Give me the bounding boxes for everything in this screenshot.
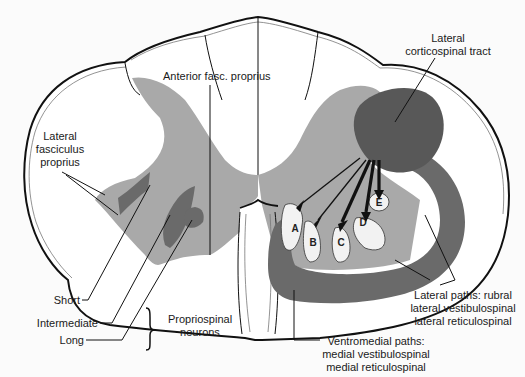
label-lateral-fasciculus-line3: proprius (40, 156, 80, 168)
pool-label-b: B (309, 237, 316, 248)
label-ventromedial-line1: Ventromedial paths: (327, 335, 424, 347)
spinal-cord-diagram: A B C D E Anterior fasc. proprius Latera (0, 0, 525, 377)
pool-label-a: A (291, 223, 298, 234)
label-lateral-paths-line3: lateral reticulospinal (414, 315, 511, 327)
label-lateral-paths-line2: lateral vestibulospinal (410, 302, 515, 314)
label-propriospinal-line2: neurons (180, 326, 220, 338)
diagram-canvas: A B C D E Anterior fasc. proprius Latera (0, 0, 525, 377)
label-intermediate: Intermediate (37, 317, 98, 329)
label-anterior-fasc-proprius: Anterior fasc. proprius (163, 70, 271, 82)
label-lateral-corticospinal-line1: Lateral (431, 32, 465, 44)
label-lateral-paths-line1: Lateral paths: rubral (414, 289, 512, 301)
label-lateral-fasciculus-line1: Lateral (43, 130, 77, 142)
label-lateral-corticospinal-line2: corticospinal tract (405, 45, 491, 57)
label-lateral-fasciculus-line2: fasciculus (36, 143, 85, 155)
label-ventromedial-line2: medial vestibulospinal (322, 348, 430, 360)
label-propriospinal-line1: Propriospinal (168, 313, 232, 325)
label-ventromedial-line3: medial reticulospinal (326, 361, 426, 373)
label-long: Long (60, 334, 84, 346)
pool-label-c: C (337, 237, 344, 248)
label-short: Short (54, 294, 80, 306)
